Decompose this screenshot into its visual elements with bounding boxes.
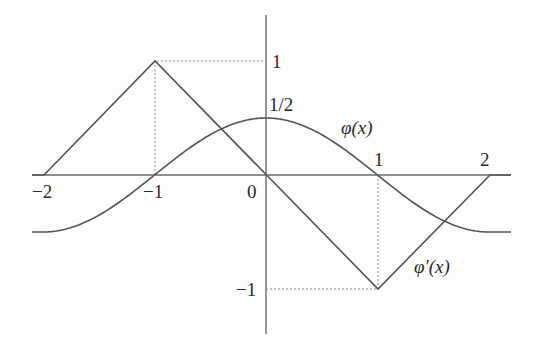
phi-prime-label: φ′(x)	[414, 256, 450, 278]
phi-label: φ(x)	[341, 117, 373, 139]
y-tick-one: 1	[272, 51, 282, 72]
x-tick-neg-one: −1	[143, 181, 163, 202]
x-tick-two: 2	[480, 149, 490, 170]
y-tick-half: 1/2	[269, 94, 293, 115]
function-diagram: 1 1/2 −1 −2 −1 0 1 2 φ(x) φ′(x)	[0, 0, 537, 356]
x-tick-one: 1	[374, 149, 384, 170]
y-tick-neg-one: −1	[236, 279, 256, 300]
x-tick-neg-two: −2	[32, 181, 52, 202]
plot-canvas: 1 1/2 −1 −2 −1 0 1 2 φ(x) φ′(x)	[0, 0, 537, 356]
x-tick-zero: 0	[247, 181, 257, 202]
